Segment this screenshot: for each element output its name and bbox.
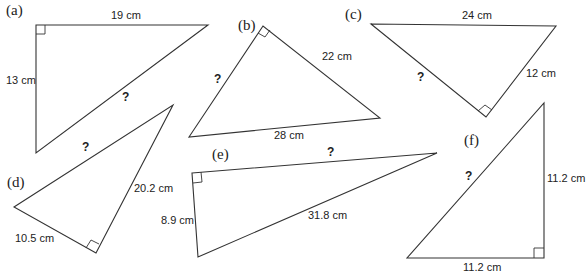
right-angle-marker-e bbox=[193, 172, 202, 183]
right-triangles-diagram: (a) 19 cm 13 cm ? (b) 22 cm 28 cm ? (c) … bbox=[0, 0, 588, 276]
triangle-e bbox=[192, 153, 437, 257]
unknown-e: ? bbox=[327, 145, 334, 159]
right-angle-marker-f bbox=[534, 248, 544, 258]
label-tag-e: (e) bbox=[212, 146, 229, 163]
unknown-a: ? bbox=[122, 90, 129, 104]
side-label-b-right: 22 cm bbox=[322, 50, 352, 62]
label-tag-b: (b) bbox=[238, 17, 256, 34]
unknown-f: ? bbox=[465, 169, 472, 183]
side-label-c-top: 24 cm bbox=[462, 9, 492, 21]
right-angle-marker-c bbox=[478, 105, 492, 111]
triangle-f bbox=[407, 103, 544, 258]
side-label-f-right: 11.2 cm bbox=[547, 172, 585, 184]
side-label-e-hyp: 31.8 cm bbox=[308, 209, 347, 221]
unknown-b: ? bbox=[214, 72, 221, 86]
label-tag-a: (a) bbox=[6, 2, 23, 19]
right-angle-marker-d bbox=[86, 240, 99, 248]
side-label-a-left: 13 cm bbox=[6, 74, 36, 86]
triangle-d bbox=[14, 105, 173, 253]
side-label-b-bottom: 28 cm bbox=[274, 129, 304, 141]
side-label-a-top: 19 cm bbox=[111, 9, 141, 21]
label-tag-c: (c) bbox=[345, 6, 362, 23]
unknown-d: ? bbox=[82, 140, 89, 154]
label-tag-d: (d) bbox=[7, 174, 25, 191]
unknown-c: ? bbox=[417, 70, 424, 84]
side-label-d-right: 20.2 cm bbox=[134, 182, 173, 194]
right-angle-marker-a bbox=[36, 25, 45, 34]
side-label-e-left: 8.9 cm bbox=[161, 214, 194, 226]
side-label-c-right: 12 cm bbox=[526, 67, 556, 79]
side-label-f-bottom: 11.2 cm bbox=[463, 261, 501, 273]
triangle-a bbox=[36, 25, 208, 153]
side-label-d-left: 10.5 cm bbox=[15, 232, 54, 244]
label-tag-f: (f) bbox=[464, 132, 479, 149]
